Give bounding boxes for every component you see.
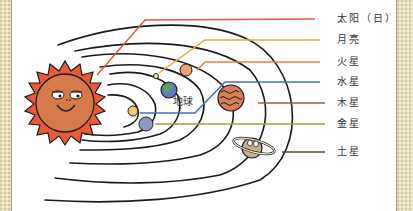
- earth-label: 地球: [173, 96, 193, 108]
- leader-line-mars: [197, 62, 320, 70]
- label-moon: 月亮: [337, 34, 361, 46]
- label-jupiter: 木星: [337, 97, 361, 109]
- label-mercury: 水星: [337, 76, 361, 88]
- jupiter-icon: [218, 85, 244, 111]
- label-mars: 火星: [337, 56, 361, 68]
- moon-icon: [154, 74, 159, 79]
- label-saturn: 土星: [337, 146, 361, 158]
- saturn-icon: [232, 135, 276, 158]
- label-sun: 太阳（日）: [337, 13, 397, 25]
- mercury-icon: [128, 106, 138, 116]
- label-venus: 金星: [337, 118, 361, 130]
- sun-icon: [25, 61, 105, 145]
- mars-icon: [180, 64, 192, 76]
- venus-icon: [139, 117, 153, 131]
